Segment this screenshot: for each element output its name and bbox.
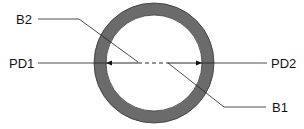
label-b2: B2 [16, 13, 32, 26]
label-b1: B1 [272, 101, 288, 114]
label-pd1: PD1 [9, 57, 34, 70]
b1-leader [168, 63, 266, 107]
label-pd2: PD2 [271, 57, 296, 70]
pipe-diagram [0, 0, 304, 129]
